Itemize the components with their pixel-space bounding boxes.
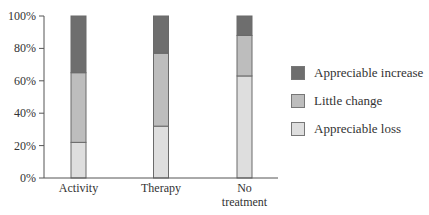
bar-activity bbox=[71, 16, 86, 178]
legend-swatch-icon bbox=[291, 66, 305, 80]
y-tick-label: 0% bbox=[20, 171, 36, 185]
bar-therapy bbox=[154, 16, 169, 178]
legend-swatch-icon bbox=[291, 94, 305, 108]
bar-segment-little-change bbox=[154, 53, 169, 126]
bar-segment-appreciable-loss bbox=[71, 142, 86, 178]
legend-item-little-change: Little change bbox=[291, 87, 423, 115]
bar-segment-appreciable-loss bbox=[154, 126, 169, 178]
bar-segment-appreciable-loss bbox=[237, 76, 252, 178]
x-category-label: treatment bbox=[222, 195, 268, 209]
x-axis: ActivityTherapyNotreatment bbox=[44, 178, 278, 209]
legend-item-appreciable-increase: Appreciable increase bbox=[291, 59, 423, 87]
bar-segment-little-change bbox=[237, 35, 252, 76]
y-tick-label: 20% bbox=[14, 139, 36, 153]
x-category-label: Therapy bbox=[141, 181, 181, 195]
bars bbox=[71, 16, 252, 178]
y-tick-label: 40% bbox=[14, 106, 36, 120]
y-axis: 0%20%40%60%80%100% bbox=[8, 9, 44, 185]
y-tick-label: 60% bbox=[14, 74, 36, 88]
legend-swatch-icon bbox=[291, 122, 305, 136]
y-tick-label: 80% bbox=[14, 41, 36, 55]
legend-label: Little change bbox=[314, 93, 382, 109]
legend-item-appreciable-loss: Appreciable loss bbox=[291, 115, 423, 143]
bar-segment-appreciable-increase bbox=[154, 16, 169, 53]
legend-label: Appreciable loss bbox=[314, 121, 401, 137]
bar-segment-appreciable-increase bbox=[237, 16, 252, 35]
x-category-label: Activity bbox=[59, 181, 98, 195]
legend: Appreciable increase Little change Appre… bbox=[291, 59, 423, 143]
bar-no-treatment bbox=[237, 16, 252, 178]
y-tick-label: 100% bbox=[8, 9, 36, 23]
bar-segment-appreciable-increase bbox=[71, 16, 86, 73]
legend-label: Appreciable increase bbox=[314, 65, 423, 81]
bar-segment-little-change bbox=[71, 73, 86, 143]
x-category-label: No bbox=[237, 181, 252, 195]
